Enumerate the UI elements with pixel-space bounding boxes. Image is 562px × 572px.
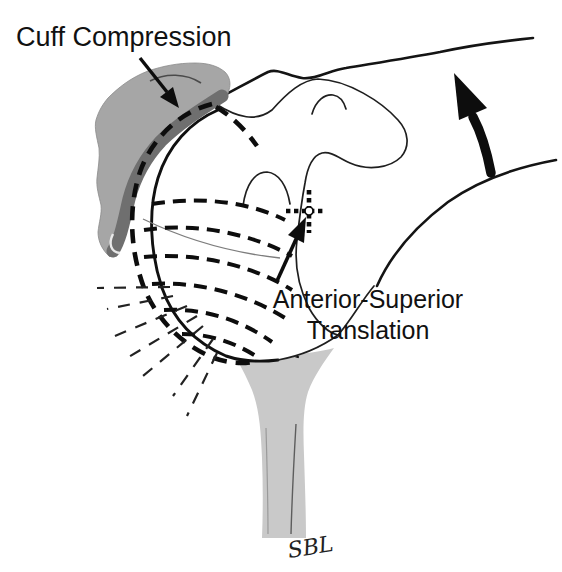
silhouette-axilla-line: [377, 160, 556, 286]
ray-line: [97, 287, 170, 288]
ray-line: [107, 296, 173, 309]
superior-arrowhead: [454, 73, 487, 120]
translation-label-line1: Anterior-Superior: [273, 285, 463, 313]
shoulder-diagram: Cuff Compression Anterior-Superior Trans…: [0, 0, 562, 572]
translation-label-line2: Translation: [307, 316, 430, 344]
crosshair-center-dot: [305, 207, 313, 215]
ray-line: [143, 326, 203, 376]
ray-line: [187, 353, 217, 416]
superior-translation-arrow: [454, 73, 491, 173]
superior-arrow-shaft: [473, 117, 491, 173]
cuff-compression-label: Cuff Compression: [16, 22, 232, 52]
diagram-canvas: Cuff Compression Anterior-Superior Trans…: [0, 0, 562, 572]
